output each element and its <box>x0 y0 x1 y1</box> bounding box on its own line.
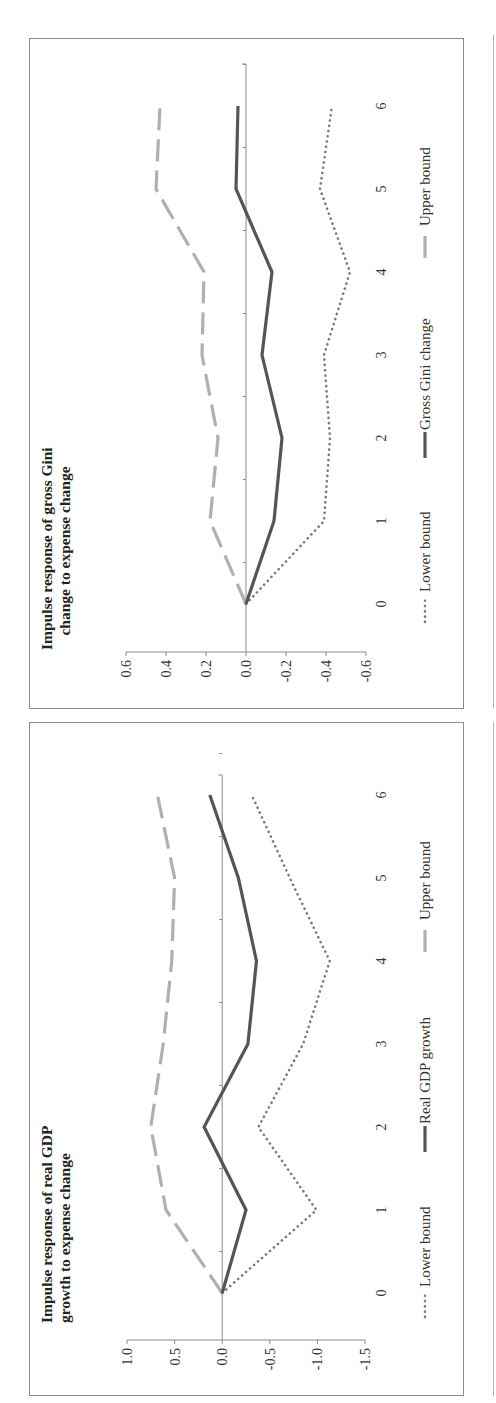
series-lower-bound <box>222 795 330 1293</box>
legend-lower-label: Lower bound <box>417 511 433 592</box>
gdp-chart: Impulse response of real GDPgrowth to ex… <box>30 723 465 1397</box>
gini-chart-panel: Impulse response of gross Ginichange to … <box>29 38 464 709</box>
y-tick-label: -0.4 <box>319 660 334 682</box>
y-tick-label: 0.0 <box>239 660 254 678</box>
y-tick-label: -0.5 <box>263 1348 278 1370</box>
legend-upper-label: Upper bound <box>417 841 433 920</box>
x-tick-label: 6 <box>374 792 389 799</box>
y-tick-label: 0.0 <box>215 1348 230 1366</box>
legend-lower-label: Lower bound <box>417 1206 433 1287</box>
x-tick-label: 6 <box>374 103 389 110</box>
chart-title-line2: change to expense change <box>56 466 73 635</box>
chart-title-line1: Impulse response of gross Gini <box>38 447 55 650</box>
adjacent-panel-edge-bottom <box>493 722 494 1396</box>
legend-main-label: Real GDP growth <box>417 1017 433 1124</box>
legend-main-label: Gross Gini change <box>417 318 433 430</box>
adjacent-panel-edge-top <box>493 35 494 708</box>
legend-upper-label: Upper bound <box>417 147 433 226</box>
x-tick-label: 2 <box>374 1124 389 1131</box>
x-tick-label: 3 <box>374 352 389 359</box>
y-tick-label: -0.6 <box>359 660 374 682</box>
x-tick-label: 4 <box>374 958 389 965</box>
gdp-chart-panel: Impulse response of real GDPgrowth to ex… <box>29 722 464 1396</box>
y-tick-label: 0.6 <box>119 660 134 678</box>
x-tick-label: 1 <box>374 518 389 525</box>
x-tick-label: 3 <box>374 1041 389 1048</box>
chart-title-line1: Impulse response of real GDP <box>38 1125 55 1323</box>
x-tick-label: 0 <box>374 601 389 608</box>
y-tick-label: -1.5 <box>358 1348 373 1370</box>
x-tick-label: 1 <box>374 1207 389 1214</box>
series-real-gdp-growth <box>204 795 256 1293</box>
x-tick-label: 4 <box>374 269 389 276</box>
series-upper-bound <box>156 106 246 604</box>
y-tick-label: 1.0 <box>120 1348 135 1366</box>
series-upper-bound <box>151 795 222 1293</box>
x-tick-label: 5 <box>374 875 389 882</box>
x-tick-label: 0 <box>374 1290 389 1297</box>
y-tick-label: 0.4 <box>159 660 174 678</box>
y-tick-label: 0.2 <box>199 660 214 678</box>
y-tick-label: -1.0 <box>310 1348 325 1370</box>
x-tick-label: 5 <box>374 186 389 193</box>
x-tick-label: 2 <box>374 435 389 442</box>
series-gross-gini-change <box>236 106 282 604</box>
y-tick-label: -0.2 <box>279 660 294 682</box>
gini-chart: Impulse response of gross Ginichange to … <box>30 39 465 710</box>
chart-title-line2: growth to expense change <box>56 1153 73 1323</box>
y-tick-label: 0.5 <box>168 1348 183 1366</box>
